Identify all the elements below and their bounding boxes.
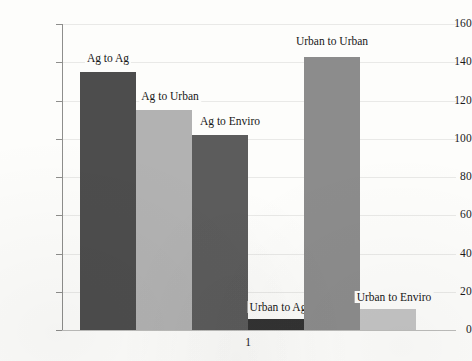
y-tick-label: 140 [424, 56, 472, 68]
y-tick-label: 120 [424, 95, 472, 107]
bar-label: Urban to Ag [248, 301, 309, 313]
bar-label: Urban to Enviro [355, 291, 434, 303]
y-tick-label: 160 [424, 18, 472, 30]
y-tick-label: 40 [424, 248, 472, 260]
bar-urban-to-urban [304, 57, 360, 330]
bar-fill [304, 57, 360, 330]
bar-ag-to-urban [136, 110, 192, 330]
bar-urban-to-enviro [360, 309, 416, 330]
gridline-0 [62, 330, 456, 331]
bar-fill [248, 319, 304, 330]
bar-label: Urban to Urban [294, 35, 370, 47]
x-tick-label: 1 [228, 336, 268, 348]
bar-series: Ag to AgAg to UrbanAg to EnviroUrban to … [80, 0, 416, 330]
y-tick-label: 80 [424, 171, 472, 183]
bar-fill [192, 135, 248, 330]
bar-fill [136, 110, 192, 330]
bar-fill [360, 309, 416, 330]
bar-label: Ag to Ag [85, 52, 131, 64]
bar-label: Ag to Enviro [198, 115, 262, 127]
y-axis-line [62, 24, 63, 330]
bar-fill [80, 72, 136, 330]
bar-chart: 020406080100120140160 Ag to AgAg to Urba… [0, 0, 472, 361]
y-tick-label: 100 [424, 133, 472, 145]
bar-ag-to-enviro [192, 135, 248, 330]
bar-urban-to-ag [248, 319, 304, 330]
y-tick-label: 60 [424, 209, 472, 221]
bar-ag-to-ag [80, 72, 136, 330]
y-tick-label: 0 [424, 324, 472, 336]
bar-label: Ag to Urban [139, 90, 201, 102]
y-tick-0 [56, 330, 62, 331]
